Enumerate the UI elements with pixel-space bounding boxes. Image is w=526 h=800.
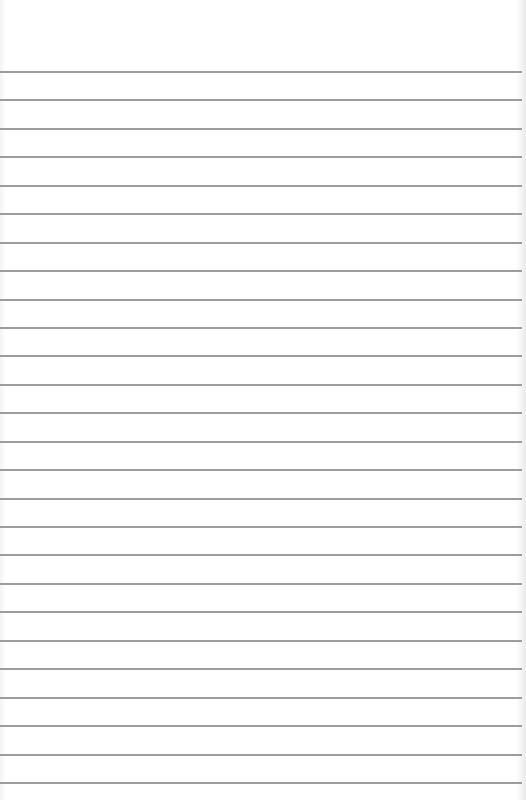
ruled-line — [0, 583, 522, 585]
ruled-line — [0, 526, 522, 528]
ruled-line — [0, 697, 522, 699]
ruled-line — [0, 412, 522, 414]
ruled-line — [0, 156, 522, 158]
ruled-line — [0, 355, 522, 357]
ruled-line — [0, 611, 522, 613]
ruled-line — [0, 498, 522, 500]
ruled-line — [0, 213, 522, 215]
ruled-line — [0, 441, 522, 443]
ruled-line — [0, 668, 522, 670]
ruled-line — [0, 554, 522, 556]
ruled-line — [0, 327, 522, 329]
ruled-line — [0, 299, 522, 301]
ruled-line — [0, 270, 522, 272]
ruled-line — [0, 185, 522, 187]
ruled-line — [0, 754, 522, 756]
ruled-line — [0, 782, 522, 784]
ruled-line — [0, 384, 522, 386]
ruled-line — [0, 469, 522, 471]
ruled-line — [0, 640, 522, 642]
ruled-line — [0, 99, 522, 101]
ruled-line — [0, 128, 522, 130]
ruled-line — [0, 71, 522, 73]
ruled-line — [0, 725, 522, 727]
ruled-line — [0, 242, 522, 244]
ruled-paper-page — [0, 0, 526, 800]
